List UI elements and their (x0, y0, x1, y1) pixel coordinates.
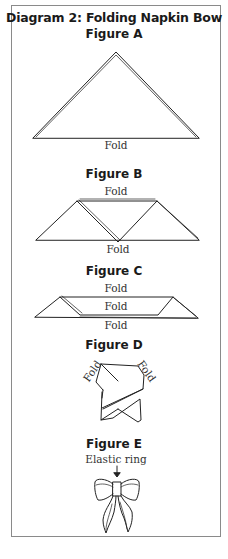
figure-d-drawing (96, 364, 144, 422)
figure-e-elastic-ring-label: Elastic ring (85, 453, 146, 465)
figure-c-fold-label-middle: Fold (104, 300, 127, 312)
figure-c-fold-label-bottom: Fold (104, 319, 127, 331)
figure-a-drawing (33, 52, 199, 138)
folding-illustrations (0, 0, 228, 559)
figure-b-fold-label-top: Fold (104, 185, 127, 197)
figure-a-fold-label: Fold (104, 139, 127, 151)
figure-e-drawing (95, 466, 140, 533)
figure-b-drawing (36, 199, 199, 242)
figure-b-fold-label-bottom: Fold (106, 243, 129, 255)
figure-c-fold-label-top: Fold (104, 282, 127, 294)
